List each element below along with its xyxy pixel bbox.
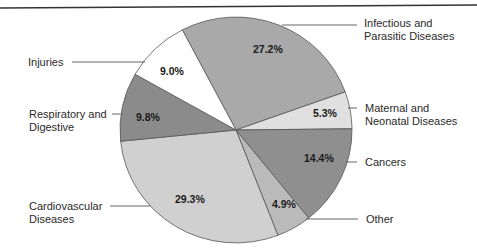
label-other-line1: Other: [366, 213, 394, 226]
label-maternal: Maternal and Neonatal Diseases: [365, 102, 457, 128]
label-respiratory-line2: Digestive: [29, 121, 107, 134]
label-cardiovascular-line1: Cardiovascular: [29, 200, 102, 213]
pct-other: 4.9%: [272, 198, 297, 210]
label-cancers-line1: Cancers: [365, 156, 406, 169]
pct-injuries: 9.0%: [160, 65, 185, 77]
label-maternal-line2: Neonatal Diseases: [365, 115, 457, 128]
label-injuries: Injuries: [28, 56, 63, 69]
label-injuries-line1: Injuries: [28, 56, 63, 69]
label-infectious-line2: Parasitic Diseases: [364, 30, 454, 43]
label-infectious-line1: Infectious and: [364, 17, 454, 30]
label-other: Other: [366, 213, 394, 226]
pct-cancers: 14.4%: [304, 152, 334, 164]
label-cardiovascular: Cardiovascular Diseases: [29, 200, 102, 226]
label-respiratory: Respiratory and Digestive: [29, 108, 107, 134]
label-cardiovascular-line2: Diseases: [29, 213, 102, 226]
label-respiratory-line1: Respiratory and: [29, 108, 107, 121]
label-cancers: Cancers: [365, 156, 406, 169]
label-infectious: Infectious and Parasitic Diseases: [364, 17, 454, 43]
pct-infectious: 27.2%: [253, 43, 283, 55]
pct-respiratory: 9.8%: [136, 111, 161, 123]
label-maternal-line1: Maternal and: [365, 102, 457, 115]
pct-maternal: 5.3%: [313, 107, 338, 119]
pct-cardiovascular: 29.3%: [175, 193, 205, 205]
top-rule: [0, 5, 477, 8]
